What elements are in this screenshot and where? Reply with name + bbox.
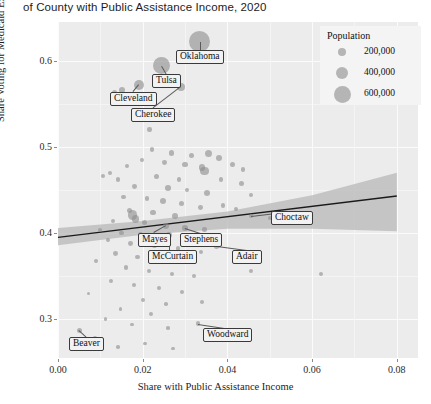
scatter-point [154,174,159,179]
scatter-point [200,167,208,175]
y-axis-tick-label: 0.6 [12,55,52,66]
county-callout-adair: Adair [232,250,262,264]
y-axis-tick-label: 0.4 [12,227,52,238]
scatter-point [141,298,145,302]
scatter-point [182,162,187,167]
legend-label-400000: 400,000 [364,67,395,77]
scatter-point [130,323,134,327]
scatter-point [116,177,120,181]
scatter-point [157,286,161,290]
x-axis-tick-mark [143,359,144,362]
confidence-band [58,173,397,245]
scatter-point [221,203,225,207]
county-callout-cleveland: Cleveland [110,92,157,106]
scatter-point [166,326,170,330]
scatter-point [169,150,175,156]
x-axis-tick-mark [397,359,398,362]
county-callout-stephens: Stephens [180,233,222,247]
scatter-point [230,162,235,167]
chart-title: of County with Public Assistance Income,… [23,1,267,13]
scatter-point [162,160,167,165]
county-callout-beaver: Beaver [69,337,104,351]
scatter-point [200,300,204,304]
scatter-point [147,127,151,131]
x-axis-tick-label: 0.04 [197,364,257,375]
scatter-point [234,207,238,211]
x-axis-tick-label: 0.08 [367,364,427,375]
scatter-point [180,290,184,294]
y-axis-tick-label: 0.5 [12,141,52,152]
scatter-point [177,177,181,181]
county-callout-woodward: Woodward [203,328,252,342]
y-axis-tick-mark [54,319,57,320]
county-callout-oklahoma: Oklahoma [176,50,224,64]
x-axis-label: Share with Public Assistance Income [0,381,431,392]
county-callout-choctaw: Choctaw [271,211,313,225]
legend-key-600000 [334,86,351,103]
legend-label-200000: 200,000 [364,46,395,56]
scatter-point [98,228,102,232]
county-callout-mayes: Mayes [138,233,171,247]
legend-title: Population [327,30,370,41]
scatter-point [172,213,178,219]
scatter-point [192,274,196,278]
y-axis-tick-mark [54,61,57,62]
scatter-point [108,171,112,175]
callout-leader-line [200,42,201,50]
x-axis-tick-label: 0.06 [282,364,342,375]
scatter-point [94,259,98,263]
x-axis-tick-mark [58,359,59,362]
scatter-point [216,155,222,161]
y-axis-label: Share Voting for Medicaid Expansion [0,0,6,122]
legend-key-400000 [336,67,348,79]
chart-figure: of County with Public Assistance Income,… [0,0,431,404]
x-axis-tick-mark [312,359,313,362]
scatter-point [150,210,156,216]
county-callout-mccurtain: McCurtain [148,250,197,264]
scatter-point [143,342,147,346]
scatter-point [116,345,120,349]
scatter-point [121,195,125,199]
y-axis-tick-label: 0.3 [12,313,52,324]
scatter-point [198,205,203,210]
scatter-point [165,185,171,191]
scatter-point [124,265,128,269]
county-callout-tulsa: Tulsa [152,74,181,88]
scatter-point [132,184,137,189]
legend-label-600000: 600,000 [364,88,395,98]
scatter-point [140,158,144,162]
y-axis-tick-mark [54,233,57,234]
scatter-point [128,241,133,246]
scatter-point [249,269,253,273]
county-callout-cherokee: Cherokee [131,108,175,122]
x-axis-tick-mark [227,359,228,362]
x-axis-tick-label: 0.02 [113,364,173,375]
scatter-point [164,302,168,306]
scatter-point [241,167,246,172]
scatter-point [239,181,244,186]
scatter-point [202,227,206,231]
y-axis-tick-mark [54,147,57,148]
x-axis-tick-label: 0.00 [28,364,88,375]
legend: Population 200,000400,000600,000 [320,26,421,105]
legend-key-200000 [338,48,346,56]
